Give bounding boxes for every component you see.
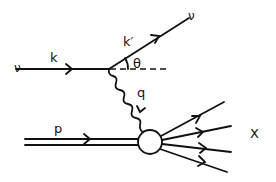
proton-double-line [25,134,139,145]
outgoing-neutrino-line [109,18,189,69]
hadronic-blob [138,130,162,154]
final-state-hadron-lines [160,102,231,172]
incoming-neutrino-label: ν [14,61,21,75]
angle-arc [125,58,128,69]
incoming-momentum-label: k [50,50,58,65]
incoming-neutrino-line [16,64,109,74]
hadronic-final-state-label: X [250,126,259,141]
proton-momentum-label: p [54,121,62,136]
outgoing-neutrino-label: ν [188,9,195,23]
feynman-diagram: ν k ν k′ θ q p X [0,0,276,182]
outgoing-momentum-label: k′ [123,34,134,49]
exchange-boson-arrow [137,106,145,112]
boson-momentum-label: q [137,85,145,100]
exchange-boson-wavy-line [109,69,150,139]
angle-label: θ [133,56,141,71]
